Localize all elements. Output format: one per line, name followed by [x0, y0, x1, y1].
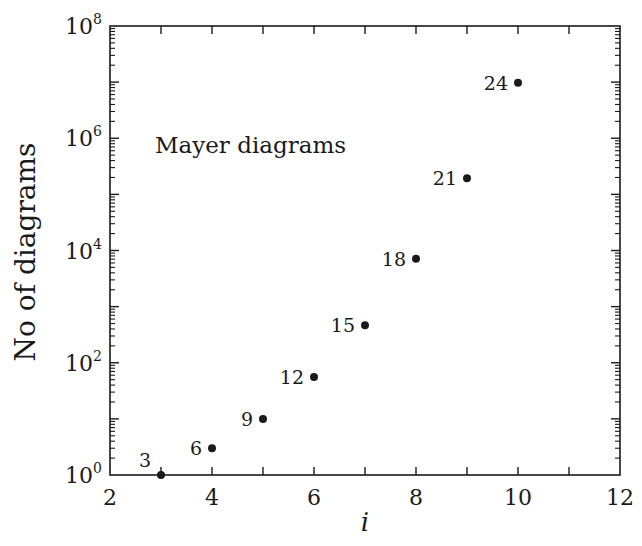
axis-tick-labels: 24681012100102104106108: [65, 11, 634, 510]
plot-frame: [110, 26, 620, 475]
data-point-label: 15: [331, 314, 355, 336]
x-tick-label: 6: [307, 485, 321, 510]
y-axis-label: No of diagrams: [9, 143, 42, 362]
data-point: [463, 174, 471, 182]
data-point-label: 3: [139, 449, 151, 471]
data-point: [514, 79, 522, 87]
series-annotation: Mayer diagrams: [155, 132, 346, 158]
y-tick-label: 106: [65, 123, 102, 151]
axes-frame: [110, 26, 620, 475]
x-tick-label: 10: [504, 485, 532, 510]
data-point-label: 9: [241, 408, 253, 430]
y-tick-label: 100: [65, 460, 102, 488]
x-axis-label: i: [361, 507, 369, 537]
y-tick-label: 104: [65, 236, 102, 264]
x-tick-label: 8: [409, 485, 423, 510]
data-point: [208, 444, 216, 452]
data-point: [157, 471, 165, 479]
data-point: [361, 321, 369, 329]
plot-area: 24681012100102104106108 3691215182124 Ma…: [0, 0, 642, 546]
y-tick-label: 108: [65, 11, 102, 39]
data-point-label: 24: [484, 72, 508, 94]
x-tick-label: 12: [606, 485, 634, 510]
data-point-label: 6: [190, 437, 202, 459]
data-point: [259, 415, 267, 423]
chart: 24681012100102104106108 3691215182124 Ma…: [0, 0, 642, 546]
data-point: [412, 255, 420, 263]
data-point-label: 18: [382, 248, 406, 270]
data-point: [310, 373, 318, 381]
y-tick-label: 102: [65, 348, 102, 376]
x-tick-label: 4: [205, 485, 219, 510]
axis-ticks: [110, 26, 620, 475]
x-tick-label: 2: [103, 485, 117, 510]
data-point-label: 21: [433, 167, 457, 189]
data-point-label: 12: [280, 366, 304, 388]
